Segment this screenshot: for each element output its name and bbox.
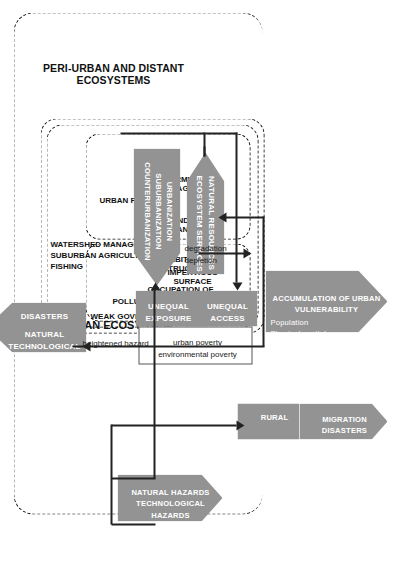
diagram-stage: PERI-URBAN AND DISTANT ECOSYSTEMS URBAN … bbox=[0, 0, 412, 587]
arrow-disasters-label: DISASTERS bbox=[4, 312, 84, 321]
arrow-accumulation-items: Population Physical capital Economic act… bbox=[270, 316, 382, 350]
line-branch-horizontal-main bbox=[235, 132, 237, 254]
line-hazards-to-exposure bbox=[153, 288, 155, 478]
arrow-accumulation-label: ACCUMULATION OF URBAN VULNERABILITY bbox=[270, 292, 382, 315]
line-top-loop-left bbox=[222, 216, 264, 218]
arrow-rural-label: RURAL bbox=[244, 413, 304, 422]
line-bottom-tee bbox=[111, 477, 155, 479]
arrowhead-rural bbox=[236, 420, 244, 430]
line-bottom-run-right bbox=[111, 523, 155, 525]
arrowhead-top-loop bbox=[218, 212, 226, 222]
arrow-migration-label: MIGRATION DISASTERS bbox=[304, 413, 384, 435]
line-unequal-access-inbound bbox=[235, 252, 237, 282]
label-unequal-access: UNEQUAL ACCESS bbox=[198, 300, 256, 323]
line-top-loop-horizontal bbox=[262, 216, 264, 346]
line-branch-top bbox=[203, 132, 205, 156]
label-heightened-hazard: heightened hazard bbox=[82, 339, 192, 348]
arrowhead-heightened-hazard bbox=[82, 341, 90, 351]
arrowhead-unequal-exposure bbox=[150, 282, 160, 290]
label-unequal-exposure: UNEQUAL EXPOSURE bbox=[139, 300, 197, 323]
line-branch-vertical-main bbox=[205, 132, 237, 134]
arrow-urbanization-label: URBANIZATION SUBURBANIZATION COUNTERURBA… bbox=[141, 152, 174, 270]
line-bottom-run bbox=[110, 424, 112, 524]
diagram-canvas: PERI-URBAN AND DISTANT ECOSYSTEMS URBAN … bbox=[0, 0, 412, 587]
arrowhead-unequal-access bbox=[232, 282, 242, 290]
peri-urban-title: PERI-URBAN AND DISTANT ECOSYSTEMS bbox=[38, 62, 188, 86]
label-degradation: degradation depletion bbox=[184, 242, 264, 266]
arrow-natural-hazards-label: NATURAL HAZARDS TECHNOLOGICAL HAZARDS bbox=[124, 486, 216, 520]
line-branch-down bbox=[120, 132, 205, 134]
line-bottom-run-left bbox=[111, 424, 236, 426]
